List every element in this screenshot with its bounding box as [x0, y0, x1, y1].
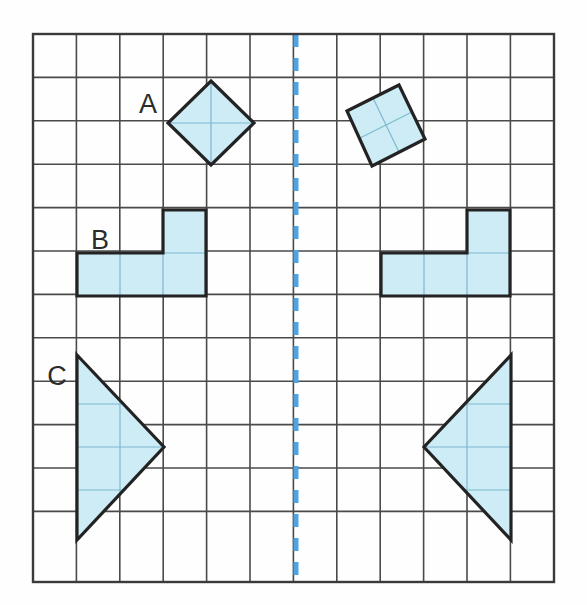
label-a: A	[139, 89, 157, 119]
worksheet-canvas: ABC	[0, 0, 587, 605]
reflection-grid-figure: ABC	[0, 0, 587, 605]
label-b: B	[91, 225, 109, 255]
label-c: C	[47, 361, 67, 391]
